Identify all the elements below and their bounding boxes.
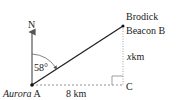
point-c-label: C: [126, 81, 133, 92]
point-a-label: Aurora A: [2, 88, 41, 99]
north-label: N: [28, 19, 35, 30]
right-angle-marker: [112, 76, 123, 85]
point-b: [122, 25, 125, 28]
line-ab: [32, 26, 123, 85]
side-bc-label: xkm: [126, 51, 144, 62]
bearing-diagram: N 58° Aurora A 8 km Brodick Beacon B xkm…: [0, 0, 178, 100]
point-b-label-line2: Beacon B: [126, 25, 165, 36]
point-b-label-line1: Brodick: [126, 11, 158, 22]
side-ac-label: 8 km: [66, 88, 87, 99]
angle-label: 58°: [34, 62, 48, 73]
point-a: [30, 83, 34, 87]
